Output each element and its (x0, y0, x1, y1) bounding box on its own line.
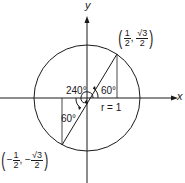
angle-60-upper-label: 60° (101, 86, 116, 96)
x-axis-label: x (177, 91, 183, 102)
lower-y-fraction: √3 2 (31, 151, 43, 170)
terminal-line (62, 54, 117, 145)
angle-60-lower-label: 60° (61, 114, 76, 124)
upper-y-fraction: √3 2 (136, 29, 148, 48)
y-axis-label: y (85, 0, 91, 11)
angle-240-label: 240° (66, 86, 87, 96)
radius-label: r = 1 (101, 103, 121, 113)
y-axis-arrow-icon (85, 16, 90, 23)
unit-circle-diagram: y x 240° 60° 60° r = 1 ( 1 2 , √3 2 ) ( … (0, 0, 185, 183)
upper-x-fraction: 1 2 (124, 29, 131, 48)
upper-point-label: ( 1 2 , √3 2 ) (117, 28, 155, 48)
lower-point-label: ( − 1 2 , − √3 2 ) (0, 150, 50, 170)
lower-x-fraction: 1 2 (13, 151, 20, 170)
